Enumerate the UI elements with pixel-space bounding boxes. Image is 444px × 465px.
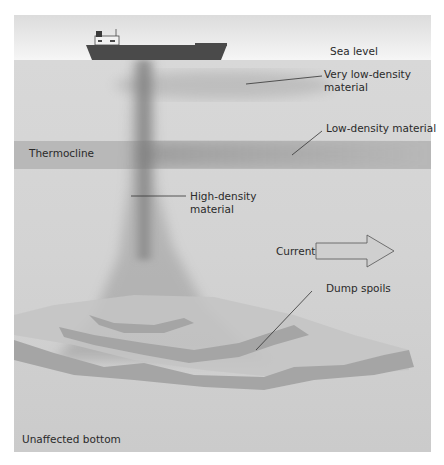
diagram-graphic bbox=[14, 15, 431, 452]
very-low-density-label-2: material bbox=[324, 81, 368, 93]
thermocline-label: Thermocline bbox=[29, 147, 94, 159]
dump-spoils-label: Dump spoils bbox=[326, 282, 391, 294]
sea-level-label: Sea level bbox=[330, 45, 378, 57]
very-low-density-label-1: Very low-density bbox=[324, 68, 411, 80]
unaffected-bottom-label: Unaffected bottom bbox=[22, 433, 121, 445]
high-density-label-1: High-density bbox=[190, 190, 256, 202]
current-label: Current bbox=[276, 245, 315, 257]
plume-column bbox=[132, 60, 156, 260]
dumping-diagram: Sea level Very low-density material Low-… bbox=[14, 15, 431, 452]
low-density-label: Low-density material bbox=[326, 122, 436, 134]
high-density-label-2: material bbox=[190, 203, 234, 215]
low-density-cloud bbox=[139, 143, 431, 165]
